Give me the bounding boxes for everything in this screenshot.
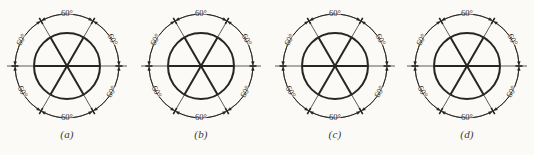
panel-a-drawing: 60°60°60°60°60°60° (0, 0, 134, 130)
figure-container: 60°60°60°60°60°60° (a) 60°60°60°60°60°60… (0, 0, 534, 155)
angle-dimension-label: 60° (416, 84, 431, 100)
angle-dimension-label: 60° (329, 8, 342, 18)
angle-dimension-label: 60° (461, 8, 474, 18)
figure-panel-c: 60°60°60°60°60°60° (c) (268, 0, 402, 155)
panel-b-drawing: 60°60°60°60°60°60° (134, 0, 268, 130)
panel-d-caption: (d) (400, 128, 534, 140)
angle-dimension-label: 60° (238, 83, 253, 99)
angle-dimension-label: 60° (61, 112, 74, 122)
angle-dimension-label: 60° (16, 84, 31, 100)
angle-dimension-label: 60° (150, 84, 165, 100)
figure-panel-b: 60°60°60°60°60°60° (b) (134, 0, 268, 155)
panel-b-caption: (b) (134, 128, 268, 140)
angle-dimension-label: 60° (504, 83, 519, 99)
panel-a-caption: (a) (0, 128, 134, 140)
panel-c-caption: (c) (268, 128, 402, 140)
angle-dimension-label: 60° (61, 8, 74, 18)
angle-dimension-label: 60° (195, 8, 208, 18)
panel-c-drawing: 60°60°60°60°60°60° (268, 0, 402, 130)
angle-dimension-label: 60° (284, 84, 299, 100)
angle-dimension-label: 60° (372, 83, 387, 99)
angle-dimension-label: 60° (104, 83, 119, 99)
angle-dimension-label: 60° (329, 112, 342, 122)
angle-dimension-label: 60° (461, 112, 474, 122)
panel-d-drawing: 60°60°60°60°60°60° (400, 0, 534, 130)
figure-panel-d: 60°60°60°60°60°60° (d) (400, 0, 534, 155)
figure-panel-a: 60°60°60°60°60°60° (a) (0, 0, 134, 155)
angle-dimension-label: 60° (195, 112, 208, 122)
